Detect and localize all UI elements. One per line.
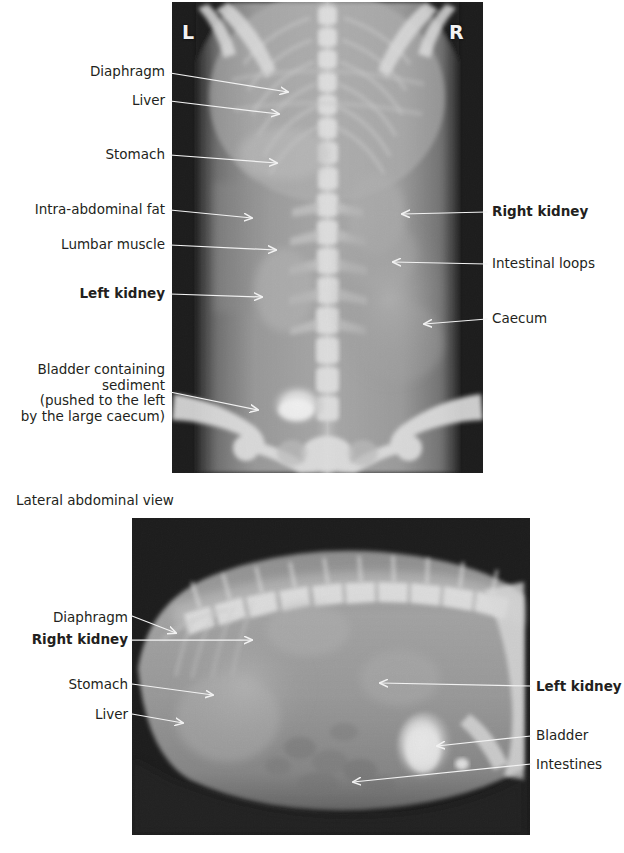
orientation-marker-left: L [182,23,195,42]
ventrodorsal-xray-render [172,2,483,473]
label-vd-diaphragm: Diaphragm [90,64,165,80]
orientation-marker-right: R [449,23,464,42]
label-lat-stomach: Stomach [68,677,128,693]
label-vd-left-kidney: Left kidney [79,286,165,302]
label-lat-bladder: Bladder [536,728,588,744]
label-lat-liver: Liver [95,707,128,723]
label-vd-caecum: Caecum [492,311,547,327]
radiograph-figure: L R Lateral abdominal view [0,0,624,853]
label-vd-liver: Liver [132,93,165,109]
label-vd-stomach: Stomach [105,147,165,163]
label-vd-lumbar-muscle: Lumbar muscle [61,237,165,253]
lateral-radiograph-image [132,518,530,835]
label-lat-right-kidney: Right kidney [32,632,128,648]
lateral-view-caption: Lateral abdominal view [16,492,174,508]
label-lat-diaphragm: Diaphragm [53,610,128,626]
label-vd-bladder-sediment: Bladder containing sediment (pushed to t… [21,362,165,424]
label-vd-intestinal-loops: Intestinal loops [492,256,595,272]
label-lat-intestines: Intestines [536,757,602,773]
label-vd-right-kidney: Right kidney [492,204,588,220]
label-lat-left-kidney: Left kidney [536,679,622,695]
label-vd-intra-abdominal-fat: Intra-abdominal fat [35,202,165,218]
ventrodorsal-radiograph-image [172,2,483,473]
lateral-xray-render [132,518,530,835]
